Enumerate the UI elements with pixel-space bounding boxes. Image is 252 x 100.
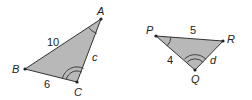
vertex-c-label: C bbox=[74, 86, 82, 98]
vertex-r-label: R bbox=[227, 33, 235, 45]
vertex-q-label: Q bbox=[191, 73, 200, 85]
side-ab-label: 10 bbox=[47, 36, 59, 48]
side-bc-label: 6 bbox=[44, 78, 50, 90]
vertex-a-label: A bbox=[96, 5, 104, 17]
vertex-b-dot bbox=[23, 67, 26, 70]
vertex-r-dot bbox=[221, 39, 224, 42]
similar-triangles-diagram: A B C 10 6 c P R Q 5 4 d bbox=[0, 0, 252, 100]
vertex-p-label: P bbox=[146, 24, 154, 36]
side-pq-label: 4 bbox=[167, 54, 173, 66]
vertex-a-dot bbox=[99, 17, 102, 20]
side-ac-label: c bbox=[92, 51, 98, 63]
vertex-b-label: B bbox=[12, 63, 19, 75]
vertex-c-dot bbox=[75, 80, 78, 83]
side-qr-label: d bbox=[210, 54, 217, 66]
vertex-p-dot bbox=[154, 34, 157, 37]
side-pr-label: 5 bbox=[190, 24, 196, 36]
vertex-q-dot bbox=[193, 68, 196, 71]
